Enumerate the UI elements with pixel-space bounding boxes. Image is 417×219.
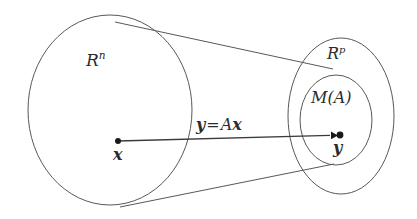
tangent-line-top <box>115 22 333 69</box>
label-domain-rn-base: R <box>86 50 99 70</box>
label-codomain-rp: Rp <box>327 46 345 62</box>
label-point-y: y <box>333 140 342 156</box>
diagram-svg <box>0 0 417 219</box>
point-x-dot <box>115 138 121 144</box>
equation-operator: = <box>205 115 220 134</box>
label-codomain-rp-exponent: p <box>339 44 345 55</box>
label-domain-rn-exponent: n <box>99 49 106 61</box>
label-domain-rn: Rn <box>86 52 106 69</box>
equation-lhs: y <box>196 115 205 134</box>
label-equation-y-equals-ax: y=Ax <box>196 117 242 133</box>
mapping-arrow-line <box>118 135 330 141</box>
label-image-set-ma: M(A) <box>311 90 351 106</box>
label-codomain-rp-base: R <box>327 44 339 63</box>
equation-matrix: A <box>221 115 233 134</box>
label-point-x: x <box>113 147 123 163</box>
domain-ellipse-rn <box>28 15 192 205</box>
equation-rhs: x <box>232 115 242 134</box>
tangent-line-bottom <box>120 164 334 207</box>
figure-canvas: Rn Rp M(A) y=Ax x y <box>0 0 417 219</box>
